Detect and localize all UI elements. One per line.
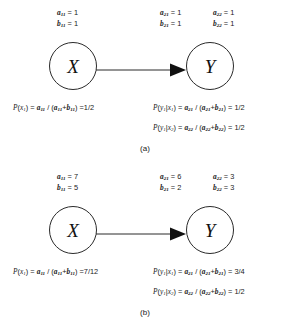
formula-x-sub: 2 [171, 127, 174, 132]
node-y-label: Y [205, 221, 216, 240]
formula-py1-given-x2-panel-b: P(y1|x2) = a22 / (a22+b22) = 1/2 [153, 286, 245, 298]
param-a-subscript: 11 [61, 12, 66, 17]
formula-p-symbol: P [153, 287, 158, 296]
param-b-subscript: 22 [217, 23, 222, 28]
formula-p-symbol: P [153, 267, 158, 276]
param-b22-line: b22 = 1 [213, 19, 234, 30]
params-y1-panel-b: a21 = 6 b21 = 2 [160, 172, 181, 194]
param-a-value: 7 [74, 172, 78, 181]
formula-x-sub: 1 [23, 271, 26, 276]
formula-py2-result: 1/2 [234, 287, 244, 296]
caption-panel-a: (a) [0, 144, 290, 153]
param-b-value: 3 [230, 183, 234, 192]
param-b-subscript: 11 [61, 187, 66, 192]
formula-px-result: 1/2 [84, 103, 94, 112]
formula-b-sub: 22 [218, 127, 223, 132]
param-a21-line: a21 = 6 [160, 172, 181, 183]
node-y: Y [186, 42, 234, 90]
param-a-value: 1 [230, 8, 234, 17]
param-a-value: 1 [74, 8, 78, 17]
formula-py1-result: 1/2 [234, 103, 244, 112]
param-a-subscript: 11 [61, 176, 66, 181]
param-a-value: 3 [230, 172, 234, 181]
param-a21-line: a21 = 1 [160, 8, 181, 19]
node-x: X [49, 206, 97, 254]
param-a22-line: a22 = 1 [213, 8, 234, 19]
formula-x-sub: 1 [23, 107, 26, 112]
formula-a-sub-2: 22 [205, 291, 210, 296]
formula-a-sub-2: 11 [57, 271, 62, 276]
node-y: Y [186, 206, 234, 254]
param-a-subscript: 22 [217, 12, 222, 17]
formula-py1-result: 3/4 [234, 267, 244, 276]
formula-py1-given-x1-panel-b: P(y1|x1) = a21 / (a21+b21) = 3/4 [153, 266, 245, 278]
formula-a-sub: 22 [188, 291, 193, 296]
formula-a-sub: 11 [40, 107, 45, 112]
formula-b-sub: 11 [70, 107, 75, 112]
formula-p-symbol: P [13, 103, 18, 112]
param-b11-line: b11 = 5 [57, 183, 78, 194]
param-b11-line: b11 = 1 [57, 19, 78, 30]
formula-x-sub: 1 [171, 107, 174, 112]
edge-x-to-y [96, 222, 190, 246]
params-y2-panel-a: a22 = 1 b22 = 1 [213, 8, 234, 30]
params-x-panel-a: a11 = 1 b11 = 1 [57, 8, 78, 30]
param-a-subscript: 21 [164, 176, 169, 181]
edge-x-to-y [96, 58, 190, 82]
param-a-value: 1 [177, 8, 181, 17]
formula-py2-result: 1/2 [234, 123, 244, 132]
param-a-value: 6 [177, 172, 181, 181]
param-b-value: 1 [230, 19, 234, 28]
formula-a-sub: 22 [188, 127, 193, 132]
formula-b-sub: 21 [218, 271, 223, 276]
formula-a-sub-2: 11 [57, 107, 62, 112]
param-b-value: 1 [177, 19, 181, 28]
formula-b-sub: 11 [70, 271, 75, 276]
formula-px-panel-b: P(x1) = a11 / (a11+b11) =7/12 [13, 266, 98, 278]
formula-p-symbol: P [153, 123, 158, 132]
formula-b-sub: 21 [218, 107, 223, 112]
formula-a-sub-2: 22 [205, 127, 210, 132]
param-b-value: 5 [74, 183, 78, 192]
formula-x-sub: 1 [171, 271, 174, 276]
formula-a-sub: 21 [188, 107, 193, 112]
param-a22-line: a22 = 3 [213, 172, 234, 183]
params-y1-panel-a: a21 = 1 b21 = 1 [160, 8, 181, 30]
arrowhead-icon [170, 64, 186, 77]
node-y-label: Y [205, 57, 216, 76]
param-b21-line: b21 = 1 [160, 19, 181, 30]
param-b22-line: b22 = 3 [213, 183, 234, 194]
formula-px-result: 7/12 [84, 267, 98, 276]
node-x-label: X [67, 221, 79, 240]
param-a11-line: a11 = 7 [57, 172, 78, 183]
param-b-subscript: 22 [217, 187, 222, 192]
param-b21-line: b21 = 2 [160, 183, 181, 194]
param-a-subscript: 22 [217, 176, 222, 181]
formula-y-sub: 1 [163, 291, 166, 296]
formula-a-sub-2: 21 [205, 271, 210, 276]
formula-p-symbol: P [13, 267, 18, 276]
formula-b-sub: 22 [218, 291, 223, 296]
param-b-subscript: 21 [164, 23, 169, 28]
param-b-value: 1 [74, 19, 78, 28]
formula-a-sub: 11 [40, 271, 45, 276]
param-a-subscript: 21 [164, 12, 169, 17]
formula-y-sub: 1 [163, 271, 166, 276]
param-b-subscript: 11 [61, 23, 66, 28]
formula-y-sub: 1 [163, 107, 166, 112]
panel-b: a11 = 7 b11 = 5 a21 = 6 b21 = 2 a22 = 3 [0, 164, 290, 328]
bayesian-network-figure: a11 = 1 b11 = 1 a21 = 1 b21 = 1 a22 = 1 [0, 0, 290, 328]
formula-a-sub-2: 21 [205, 107, 210, 112]
node-x: X [49, 42, 97, 90]
caption-panel-b: (b) [0, 308, 290, 317]
formula-py1-given-x2-panel-a: P(y1|x2) = a22 / (a22+b22) = 1/2 [153, 122, 245, 134]
param-b-subscript: 21 [164, 187, 169, 192]
params-x-panel-b: a11 = 7 b11 = 5 [57, 172, 78, 194]
param-b-value: 2 [177, 183, 181, 192]
panel-a: a11 = 1 b11 = 1 a21 = 1 b21 = 1 a22 = 1 [0, 0, 290, 164]
node-x-label: X [67, 57, 79, 76]
formula-py1-given-x1-panel-a: P(y1|x1) = a21 / (a21+b21) = 1/2 [153, 102, 245, 114]
arrowhead-icon [170, 228, 186, 241]
params-y2-panel-b: a22 = 3 b22 = 3 [213, 172, 234, 194]
formula-x-sub: 2 [171, 291, 174, 296]
